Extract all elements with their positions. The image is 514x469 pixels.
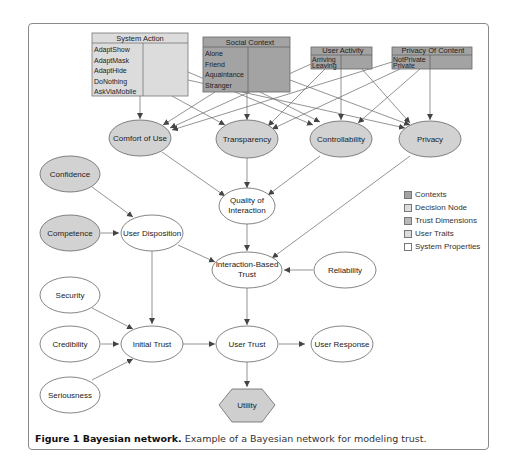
- node-controllability: Controllability: [310, 121, 372, 157]
- svg-text:User Trust: User Trust: [229, 340, 267, 349]
- legend-item-trust-dimensions: Trust Dimensions: [404, 214, 480, 227]
- node-competence: Competence: [40, 215, 100, 251]
- svg-text:Comfort of Use: Comfort of Use: [113, 134, 167, 143]
- svg-text:Privacy: Privacy: [417, 135, 443, 144]
- context-box-system-action: System Action AdaptShow AdaptMask AdaptH…: [92, 33, 188, 96]
- legend-swatch: [404, 191, 412, 199]
- caption-title: Figure 1 Bayesian network.: [35, 433, 182, 444]
- context-box-privacy-of-content: Privacy Of Content NotPrivate Private: [392, 46, 472, 69]
- legend-label: User Traits: [415, 229, 454, 238]
- legend-swatch: [404, 243, 412, 251]
- legend: Contexts Decision Node Trust Dimensions …: [404, 188, 480, 253]
- legend-item-decision-node: Decision Node: [404, 201, 480, 214]
- legend-swatch: [404, 230, 412, 238]
- node-initial-trust: Initial Trust: [121, 326, 183, 362]
- node-transparency: Transparency: [216, 120, 278, 158]
- node-user-response: User Response: [311, 326, 373, 362]
- node-privacy: Privacy: [399, 121, 461, 157]
- box-title: Privacy Of Content: [402, 46, 466, 55]
- node-utility: Utility: [219, 389, 275, 422]
- svg-text:Interaction-Based: Interaction-Based: [216, 260, 279, 269]
- svg-text:Trust: Trust: [238, 270, 257, 279]
- legend-item-system-properties: System Properties: [404, 240, 480, 253]
- node-reliability: Reliability: [314, 252, 376, 288]
- node-seriousness: Seriousness: [40, 377, 100, 413]
- state-label: AdaptMask: [94, 57, 130, 65]
- context-box-social-context: Social Context Alone Friend Aquaintance …: [203, 37, 290, 92]
- state-label: AdaptShow: [94, 46, 131, 54]
- state-label: AskViaMobile: [94, 88, 136, 95]
- svg-text:Reliability: Reliability: [328, 266, 362, 275]
- box-title: Social Context: [226, 38, 275, 47]
- box-title: User Activity: [322, 46, 364, 55]
- svg-text:Utility: Utility: [237, 401, 257, 410]
- state-label: Aquaintance: [205, 71, 244, 79]
- node-quality-of-interaction: Quality of Interaction: [219, 188, 275, 224]
- box-title: System Action: [116, 34, 164, 43]
- state-label: Alone: [205, 50, 223, 57]
- node-security: Security: [40, 277, 100, 313]
- legend-label: System Properties: [415, 242, 480, 251]
- svg-text:Security: Security: [56, 291, 85, 300]
- state-label: Private: [393, 62, 415, 69]
- legend-swatch: [404, 204, 412, 212]
- svg-text:Credibility: Credibility: [52, 340, 87, 349]
- state-label: AdaptHide: [94, 67, 127, 75]
- legend-swatch: [404, 217, 412, 225]
- state-label: DoNothing: [94, 78, 127, 86]
- node-interaction-based-trust: Interaction-Based Trust: [212, 252, 282, 288]
- legend-label: Contexts: [415, 190, 447, 199]
- figure-caption: Figure 1 Bayesian network. Example of a …: [35, 433, 427, 444]
- svg-text:Initial Trust: Initial Trust: [133, 340, 172, 349]
- svg-text:Interaction: Interaction: [228, 206, 265, 215]
- node-user-trust: User Trust: [216, 326, 278, 362]
- state-label: Leaving: [312, 62, 337, 70]
- svg-text:Controllability: Controllability: [317, 135, 365, 144]
- node-user-disposition: User Disposition: [121, 215, 183, 251]
- caption-text: Example of a Bayesian network for modeli…: [182, 433, 427, 444]
- svg-text:User Response: User Response: [314, 340, 370, 349]
- state-label: Stranger: [205, 82, 233, 90]
- svg-text:Confidence: Confidence: [50, 170, 91, 179]
- legend-label: Decision Node: [415, 203, 467, 212]
- node-credibility: Credibility: [40, 326, 100, 362]
- legend-item-user-traits: User Traits: [404, 227, 480, 240]
- svg-text:User Disposition: User Disposition: [123, 229, 181, 238]
- state-label: Friend: [205, 61, 225, 68]
- legend-label: Trust Dimensions: [415, 216, 477, 225]
- node-comfort-of-use: Comfort of Use: [109, 120, 171, 156]
- context-box-user-activity: User Activity Arriving Leaving: [311, 46, 372, 70]
- svg-text:Competence: Competence: [47, 229, 93, 238]
- svg-text:Transparency: Transparency: [223, 135, 272, 144]
- node-confidence: Confidence: [40, 156, 100, 192]
- legend-item-contexts: Contexts: [404, 188, 480, 201]
- svg-text:Seriousness: Seriousness: [48, 391, 92, 400]
- svg-text:Quality of: Quality of: [230, 196, 265, 205]
